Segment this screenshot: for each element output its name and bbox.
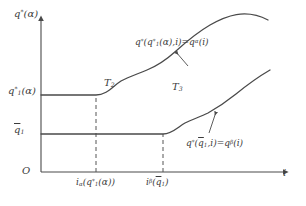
upper-curve-path (41, 14, 268, 95)
upper-curve-leader (176, 52, 188, 66)
region-label-T2: T2 (104, 78, 115, 89)
y-axis-label: q*(α) (14, 9, 38, 19)
region-label-T3: T3 (172, 82, 183, 93)
figure-canvas: q*(α) i O q*1(α) q1 iα(q*1(α)) iβ(q1) T2… (0, 0, 306, 206)
y-tick-q1-star-alpha: q*1(α) (8, 86, 36, 97)
x-tick-i-alpha: iα(q*1(α)) (76, 178, 115, 188)
origin-label: O (22, 166, 30, 176)
upper-curve-label: q*(q*1(α),i)=qα(i) (135, 38, 209, 48)
lower-curve-label: q*(q1,i)=qβ(i) (186, 139, 243, 149)
lower-curve-path (41, 70, 270, 134)
lower-curve-leader (209, 112, 216, 133)
x-axis-label: i (283, 168, 286, 178)
x-tick-i-beta: iβ(q1) (146, 178, 168, 188)
plot-svg (0, 0, 306, 206)
y-tick-q1-bar: q1 (14, 125, 24, 136)
